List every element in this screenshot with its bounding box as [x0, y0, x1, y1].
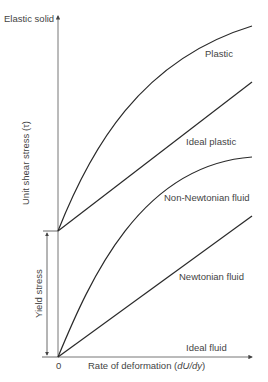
- curve-non-newtonian: [58, 157, 252, 357]
- ideal-plastic-label: Ideal plastic: [186, 136, 236, 147]
- rheology-diagram: Elastic solid Plastic Ideal plastic Non-…: [0, 0, 268, 382]
- x-axis-label-prefix: Rate of deformation (: [88, 360, 178, 371]
- x-axis-label-math: dU/dy: [177, 360, 203, 371]
- y-axis-label: Unit shear stress (τ): [20, 121, 31, 205]
- ideal-fluid-label: Ideal fluid: [186, 342, 227, 353]
- curve-newtonian: [58, 216, 252, 357]
- curve-ideal-plastic: [58, 82, 252, 231]
- plastic-label: Plastic: [205, 48, 233, 59]
- non-newtonian-label: Non-Newtonian fluid: [164, 192, 250, 203]
- x-axis-label-suffix: ): [202, 360, 205, 371]
- yield-stress-label: Yield stress: [33, 269, 44, 318]
- newtonian-label: Newtonian fluid: [179, 271, 244, 282]
- origin-label: 0: [56, 360, 61, 371]
- x-axis-label: Rate of deformation (dU/dy): [88, 360, 205, 371]
- elastic-solid-label: Elastic solid: [4, 13, 54, 24]
